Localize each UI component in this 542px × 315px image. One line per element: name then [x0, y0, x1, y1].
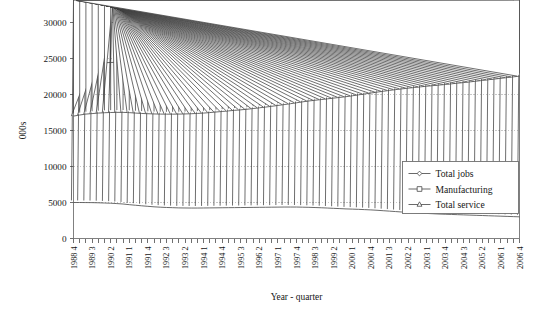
- x-tick-label: 1990 2: [107, 247, 116, 270]
- x-tick-label: 2005 2: [478, 247, 487, 270]
- y-axis-label-text: 000s: [18, 121, 28, 139]
- chart-container: 050001000015000200002500030000 1988 4198…: [0, 0, 542, 315]
- line-chart: 050001000015000200002500030000 1988 4198…: [0, 0, 542, 315]
- y-tick-label: 0: [62, 234, 67, 244]
- x-tick-label: 1997 1: [274, 247, 283, 270]
- x-axis-title: Year - quarter: [271, 292, 324, 302]
- x-tick-label: 2003 4: [441, 247, 450, 270]
- x-tick-label: 2006 1: [497, 247, 506, 270]
- y-axis-title: 000s: [18, 121, 28, 139]
- legend-label: Manufacturing: [436, 184, 493, 195]
- legend-label: Total jobs: [436, 168, 474, 179]
- y-tick-label: 25000: [44, 54, 67, 64]
- x-tick-label: 1989 3: [88, 247, 97, 270]
- x-tick-label: 2001 3: [385, 247, 394, 270]
- square-marker: [417, 187, 422, 192]
- x-tick-label: 1991 1: [125, 247, 134, 270]
- x-tick-label: 2004 3: [460, 247, 469, 270]
- y-tick-label: 20000: [44, 90, 67, 100]
- y-tick-label: 15000: [44, 126, 67, 136]
- x-tick-label: 2003 1: [423, 247, 432, 270]
- x-tick-label: 2000 1: [348, 247, 357, 270]
- x-tick-label: 2000 4: [367, 247, 376, 270]
- chart-legend: Total jobsManufacturingTotal service: [403, 162, 519, 214]
- x-tick-label: 1996 2: [255, 247, 264, 270]
- y-tick-label: 5000: [48, 198, 67, 208]
- x-axis-label-text: Year - quarter: [271, 292, 324, 302]
- y-tick-label: 30000: [44, 18, 67, 28]
- x-tick-label: 1992 3: [162, 247, 171, 270]
- x-tick-label: 2006 4: [516, 247, 525, 270]
- y-tick-label: 10000: [44, 162, 67, 172]
- legend-label: Total service: [436, 199, 485, 210]
- x-tick-label: 2002 2: [404, 247, 413, 270]
- x-tick-label: 1991 4: [144, 247, 153, 270]
- x-tick-label: 1995 3: [237, 247, 246, 270]
- x-tick-label: 1998 3: [311, 247, 320, 270]
- x-tick-label: 1994 4: [218, 247, 227, 270]
- x-tick-label: 1993 2: [181, 247, 190, 270]
- x-tick-label: 1999 2: [330, 247, 339, 270]
- x-tick-label: 1994 1: [200, 247, 209, 270]
- x-tick-label: 1997 4: [293, 247, 302, 270]
- x-tick-label: 1988 4: [70, 247, 79, 270]
